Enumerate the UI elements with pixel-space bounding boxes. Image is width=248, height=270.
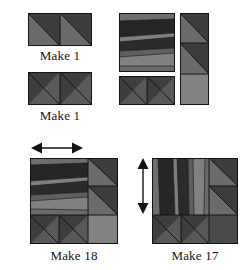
caption-make-18: Make 18: [32, 248, 116, 263]
caption-make-1-top: Make 1: [22, 48, 98, 63]
vertical-direction-arrow: [136, 158, 150, 218]
assembled-block-make-17: [152, 158, 238, 244]
half-square-triangle-pair-c: [119, 76, 175, 105]
horizontal-direction-arrow: [31, 141, 83, 159]
side-column-unit: [180, 13, 209, 105]
angled-strip-rectangle: [119, 13, 175, 72]
half-square-triangle-pair-b: [28, 72, 92, 105]
caption-make-1-bottom: Make 1: [22, 108, 98, 123]
diagram-canvas: Make 1 Make 1: [0, 0, 248, 270]
caption-make-17: Make 17: [153, 248, 237, 263]
half-square-triangle-pair-a: [28, 13, 92, 46]
assembled-block-make-18: [30, 158, 118, 244]
